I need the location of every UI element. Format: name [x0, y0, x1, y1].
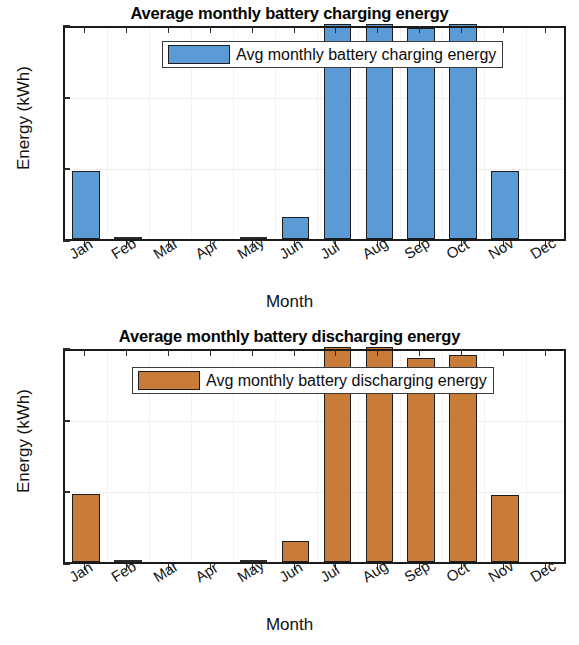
gridline-vertical	[526, 26, 527, 239]
x-axis-tick-top	[252, 349, 253, 356]
y-axis-tick	[63, 348, 70, 350]
x-axis-tick-top	[168, 349, 169, 356]
y-axis-tick	[63, 491, 70, 493]
x-axis-tick-top	[545, 349, 546, 356]
x-axis-tick-top	[503, 349, 504, 356]
x-axis-tick-top	[335, 349, 336, 356]
legend-label-charging: Avg monthly battery charging energy	[236, 47, 496, 63]
x-axis-tick-top	[84, 26, 85, 33]
x-axis-tick-top	[545, 26, 546, 33]
y-axis-label-charging: Energy (kWh)	[14, 8, 34, 228]
x-axis-tick-top	[377, 26, 378, 33]
gridline-vertical	[149, 26, 150, 239]
legend-label-discharging: Avg monthly battery discharging energy	[206, 373, 487, 389]
x-axis-tick-label: Jul	[317, 561, 342, 586]
legend-swatch-icon	[168, 45, 230, 64]
x-axis-tick-top	[503, 26, 504, 33]
y-axis-tick	[63, 563, 70, 565]
bar-nov	[491, 171, 519, 239]
axes-top-rule-charging	[63, 26, 566, 28]
y-axis-tick	[63, 240, 70, 242]
x-axis-tick-top	[294, 26, 295, 33]
x-axis-label-charging: Month	[0, 292, 579, 312]
x-axis-tick-top	[210, 26, 211, 33]
y-axis-tick	[63, 420, 70, 422]
chart-title-charging: Average monthly battery charging energy	[0, 4, 579, 23]
y-axis-tick	[63, 97, 70, 99]
chart-panel-charging: Average monthly battery charging energy …	[0, 0, 579, 322]
x-axis-tick-top	[210, 349, 211, 356]
gridline-horizontal	[65, 421, 566, 422]
figure-canvas: Average monthly battery charging energy …	[0, 0, 579, 645]
x-axis-tick-top	[294, 349, 295, 356]
x-axis-tick-top	[252, 26, 253, 33]
legend-discharging[interactable]: Avg monthly battery discharging energy	[132, 367, 494, 394]
y-axis-label-discharging: Energy (kWh)	[14, 331, 34, 551]
x-axis-tick-top	[126, 26, 127, 33]
axes-right-rule-discharging	[564, 349, 566, 564]
x-axis-tick-top	[126, 349, 127, 356]
x-axis-tick-top	[84, 349, 85, 356]
axes-right-rule-charging	[564, 26, 566, 241]
gridline-horizontal	[65, 492, 566, 493]
legend-swatch-icon	[138, 371, 200, 390]
x-axis-tick-label: Jul	[317, 238, 342, 263]
chart-panel-discharging: Average monthly battery discharging ener…	[0, 323, 579, 645]
bar-jan	[72, 171, 100, 239]
x-axis-tick-top	[335, 26, 336, 33]
gridline-vertical	[526, 349, 527, 562]
y-axis-tick	[63, 25, 70, 27]
x-axis-tick-top	[419, 349, 420, 356]
gridline-vertical	[107, 349, 108, 562]
x-axis-tick-top	[168, 26, 169, 33]
legend-charging[interactable]: Avg monthly battery charging energy	[162, 41, 503, 68]
gridline-vertical	[107, 26, 108, 239]
x-axis-tick-top	[461, 349, 462, 356]
x-axis-tick-top	[461, 26, 462, 33]
gridline-horizontal	[65, 98, 566, 99]
y-axis-tick	[63, 168, 70, 170]
x-axis-tick-top	[419, 26, 420, 33]
chart-title-discharging: Average monthly battery discharging ener…	[0, 327, 579, 346]
x-axis-tick-top	[377, 349, 378, 356]
axes-top-rule-discharging	[63, 349, 566, 351]
bar-jan	[72, 494, 100, 562]
bar-nov	[491, 495, 519, 562]
x-axis-label-discharging: Month	[0, 615, 579, 635]
